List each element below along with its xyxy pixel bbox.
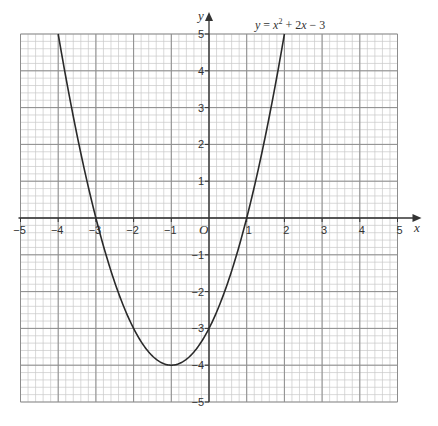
graph-canvas: −5−4−3−2−1O12345 54321−1−2−3−4−5 x y y =…	[0, 0, 438, 426]
y-axis-label: y	[196, 8, 204, 23]
x-axis-label: x	[413, 220, 420, 235]
x-tick-label: O	[199, 222, 209, 237]
x-tick-label: −4	[51, 224, 64, 236]
equation-label: y = x2 + 2x − 3	[254, 17, 325, 32]
x-tick-label: 2	[283, 224, 289, 236]
y-tick-label: 1	[198, 175, 204, 187]
y-tick-label: −5	[191, 396, 204, 408]
y-tick-label: 4	[198, 65, 204, 77]
x-tick-label: 4	[359, 224, 365, 236]
y-tick-label: −4	[191, 359, 204, 371]
x-tick-labels: −5−4−3−2−1O12345	[13, 222, 402, 237]
x-tick-label: −5	[13, 224, 26, 236]
x-tick-label: 1	[246, 224, 252, 236]
x-tick-label: 3	[321, 224, 327, 236]
y-tick-label: −1	[191, 249, 204, 261]
x-tick-label: −1	[164, 224, 177, 236]
y-tick-label: −3	[191, 322, 204, 334]
x-tick-label: 5	[396, 224, 402, 236]
y-tick-label: 2	[198, 138, 204, 150]
y-tick-label: 5	[198, 28, 204, 40]
x-tick-label: −2	[126, 224, 139, 236]
y-tick-label: −2	[191, 286, 204, 298]
y-tick-label: 3	[198, 102, 204, 114]
